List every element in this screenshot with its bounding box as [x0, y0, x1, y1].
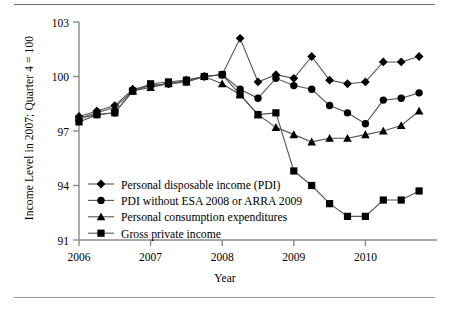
data-point-marker-square [219, 71, 226, 78]
data-point-marker-square [129, 87, 136, 94]
data-point-marker-triangle [218, 79, 227, 87]
legend: Personal disposable income (PDI)PDI with… [88, 179, 302, 241]
data-point-marker-square [201, 73, 208, 80]
legend-entry-3[interactable]: Gross private income [88, 228, 221, 241]
y-tick-label: 103 [52, 17, 70, 29]
legend-entry-label: Gross private income [121, 228, 221, 241]
data-point-marker-square [165, 78, 172, 85]
data-point-marker-circle [415, 89, 422, 96]
data-point-marker-circle [326, 102, 333, 109]
data-point-marker-circle [362, 120, 369, 127]
x-tick-label: 2006 [68, 251, 91, 263]
data-point-marker-square [380, 196, 387, 203]
x-tick-label: 2008 [211, 251, 234, 263]
legend-entry-1[interactable]: PDI without ESA 2008 or ARRA 2009 [88, 195, 302, 208]
data-point-marker-square [183, 77, 190, 84]
data-point-marker-diamond [97, 180, 106, 189]
data-point-marker-diamond [254, 78, 263, 87]
series-line [79, 77, 419, 142]
data-point-marker-square [237, 91, 244, 98]
line-chart-svg: 91949710010320062007200820092010Personal… [0, 0, 449, 292]
data-point-marker-diamond [415, 52, 424, 61]
data-point-marker-square [416, 187, 423, 194]
data-point-marker-circle [254, 95, 261, 102]
bottom-divider-rule [14, 297, 435, 298]
figure-root: Income Level in 2007; Quarter 4 = 100 Ye… [0, 0, 449, 310]
data-point-marker-square [272, 109, 279, 116]
legend-entry-2[interactable]: Personal consumption expenditures [88, 211, 288, 224]
data-point-marker-square [147, 80, 154, 87]
chart-plot-area: Income Level in 2007; Quarter 4 = 100 Ye… [0, 0, 449, 292]
data-point-marker-square [398, 196, 405, 203]
y-tick-label: 94 [58, 180, 70, 192]
x-tick-label: 2009 [282, 251, 305, 263]
y-tick-group: 919497100103 [52, 17, 79, 247]
legend-entry-label: Personal disposable income (PDI) [121, 179, 280, 192]
legend-entry-label: Personal consumption expenditures [121, 211, 288, 224]
y-tick-label: 91 [58, 235, 70, 247]
data-point-marker-square [344, 213, 351, 220]
data-point-marker-square [97, 230, 104, 237]
x-tick-label: 2007 [139, 251, 162, 263]
data-point-marker-diamond [236, 34, 245, 43]
series-1 [75, 71, 423, 127]
y-tick-label: 97 [58, 126, 70, 138]
data-point-marker-circle [380, 96, 387, 103]
data-point-marker-diamond [397, 58, 406, 67]
data-point-marker-square [290, 167, 297, 174]
x-tick-label: 2010 [354, 251, 377, 263]
data-point-marker-square [93, 111, 100, 118]
data-point-marker-triangle [290, 130, 299, 138]
data-point-marker-circle [290, 82, 297, 89]
series-2 [75, 72, 424, 145]
data-point-marker-circle [97, 197, 104, 204]
data-point-marker-circle [308, 86, 315, 93]
data-point-marker-square [308, 182, 315, 189]
data-point-marker-square [254, 111, 261, 118]
data-point-marker-square [326, 200, 333, 207]
data-point-marker-square [111, 109, 118, 116]
y-tick-label: 100 [52, 71, 70, 83]
data-point-marker-triangle [415, 107, 424, 115]
legend-entry-label: PDI without ESA 2008 or ARRA 2009 [121, 195, 302, 208]
series-0 [75, 34, 424, 121]
legend-entry-0[interactable]: Personal disposable income (PDI) [88, 179, 280, 192]
data-point-marker-square [362, 213, 369, 220]
data-point-marker-circle [272, 75, 279, 82]
data-point-marker-square [75, 118, 82, 125]
data-point-marker-circle [344, 109, 351, 116]
x-tick-group: 20062007200820092010 [68, 240, 378, 263]
data-point-marker-diamond [325, 76, 334, 85]
data-point-marker-diamond [343, 79, 352, 88]
data-point-marker-circle [398, 95, 405, 102]
